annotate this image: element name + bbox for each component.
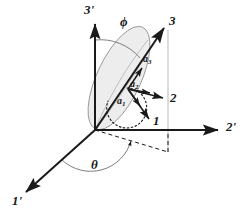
axis-label-3: 3 (169, 14, 176, 27)
vector-label-a3: a3 (143, 54, 152, 64)
diagram-canvas (0, 0, 248, 217)
projection-dashed-line (95, 130, 168, 152)
axis-1-prime-line (26, 130, 95, 192)
angle-label-theta: θ (91, 158, 98, 171)
ellipse-disk (75, 18, 162, 138)
vector-label-a2: a2 (130, 79, 139, 89)
angle-label-phi: ϕ (120, 15, 128, 28)
axis-label-2-prime: 2' (226, 120, 236, 133)
vector-label-a1: a1 (117, 96, 126, 106)
vector-label-a2-sub: 2 (135, 83, 139, 91)
axis-label-1-prime: 1' (12, 194, 22, 207)
vector-label-a1-sub: 1 (122, 100, 126, 108)
axis-label-2: 2 (170, 91, 177, 104)
axis-label-3-prime: 3' (84, 3, 94, 16)
figure-3d-axes-diagram: 3' 2' 1' 3 2 1 ϕ θ a3 a2 a1 (0, 0, 248, 217)
axis-label-1: 1 (153, 114, 160, 127)
vector-label-a3-sub: 3 (148, 58, 152, 66)
